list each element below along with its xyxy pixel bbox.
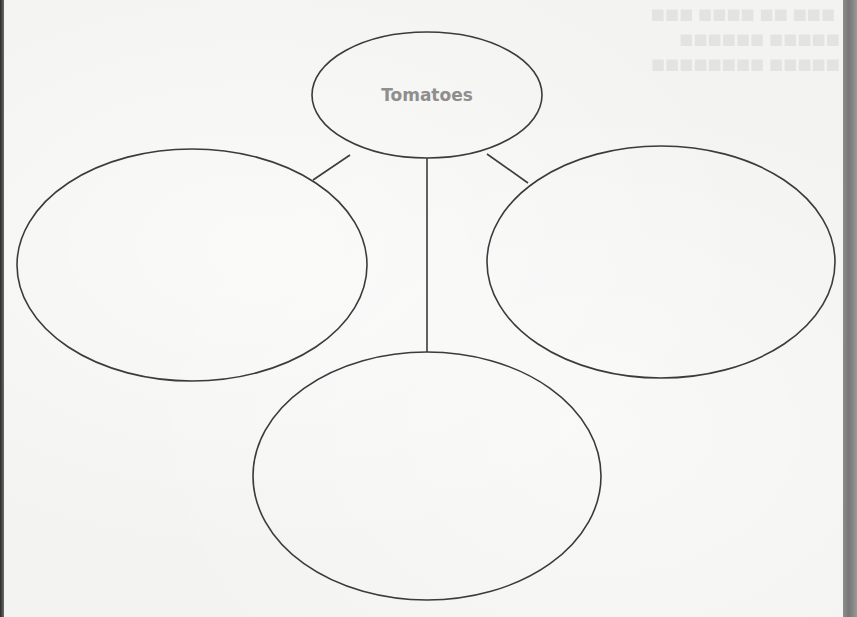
connector-right [487, 154, 528, 183]
idea-web-diagram: Tomatoes [0, 0, 857, 617]
center-topic-label: Tomatoes [381, 85, 473, 105]
connector-left [313, 155, 350, 180]
branch-oval-left[interactable] [17, 149, 367, 381]
worksheet-page: ■■■ ■■ ■■■■ ■■■ ■■■■■ ■■■■■■ ■■■■■ ■■■■■… [0, 0, 857, 617]
branch-oval-bottom[interactable] [253, 352, 601, 600]
branch-oval-right[interactable] [487, 146, 835, 378]
